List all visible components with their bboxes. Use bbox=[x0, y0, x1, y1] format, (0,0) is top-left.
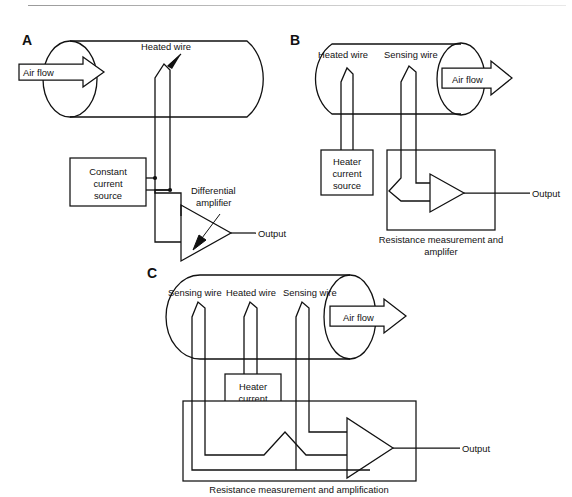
panel-a-air-flow-label: Air flow bbox=[23, 67, 54, 78]
panel-c-sensing-wire-left bbox=[192, 302, 205, 357]
panel-c-air-flow-label: Air flow bbox=[343, 312, 374, 323]
panel-c-heated-wire-label: Heated wire bbox=[226, 287, 276, 298]
panel-c-sensing-wire-right bbox=[296, 302, 309, 357]
panel-a: A Air flow Heated wire bbox=[19, 32, 287, 261]
panel-b-sensing-wire-label: Sensing wire bbox=[384, 49, 438, 60]
panel-c-measure-caption: Resistance measurement and amplification bbox=[209, 484, 388, 495]
panel-a-heated-wire bbox=[155, 64, 170, 105]
panel-a-heated-wire-label: Heated wire bbox=[141, 41, 191, 52]
panel-a-source-line3: source bbox=[94, 190, 122, 201]
panel-b-heater-line3: source bbox=[333, 180, 361, 191]
panel-c-heated-wire bbox=[244, 302, 257, 357]
panel-b-letter: B bbox=[290, 32, 300, 48]
panel-b-air-flow-label: Air flow bbox=[452, 74, 483, 85]
panel-b-heater-line2: current bbox=[332, 168, 362, 179]
panel-b-resistance-measurement-box bbox=[387, 150, 495, 230]
figure-canvas: A Air flow Heated wire bbox=[0, 0, 572, 497]
panel-c-sensing-wire-right-label: Sensing wire bbox=[283, 287, 337, 298]
panel-b-output-label: Output bbox=[532, 188, 561, 199]
panel-a-source-line2: current bbox=[93, 178, 123, 189]
panel-a-source-line1: Constant bbox=[89, 166, 127, 177]
panel-c: C Air flow Sensing wire Heated wire bbox=[147, 265, 491, 495]
panel-a-amplifier-line1: Differential bbox=[191, 185, 236, 196]
panel-c-output-label: Output bbox=[462, 443, 491, 454]
panel-c-heater-line1: Heater bbox=[239, 381, 267, 392]
panel-a-amp-input-plus bbox=[155, 178, 181, 216]
panel-a-amplifier-line2: amplifier bbox=[196, 197, 231, 208]
panel-b-measure-caption-line1: Resistance measurement and bbox=[379, 234, 504, 245]
panel-b-measure-caption-line2: amplifer bbox=[424, 246, 457, 257]
panel-a-amp-input-minus bbox=[155, 190, 181, 242]
panel-c-sensing-wire-left-label: Sensing wire bbox=[168, 287, 222, 298]
panel-b-sensing-wire bbox=[401, 66, 416, 120]
panel-c-letter: C bbox=[147, 265, 157, 281]
panel-b-heated-wire bbox=[341, 68, 353, 112]
panel-b-heated-wire-label: Heated wire bbox=[318, 49, 368, 60]
panel-c-resistance-measurement-box bbox=[183, 401, 416, 481]
panel-a-heated-wire-pointer bbox=[167, 54, 181, 69]
panel-b-heater-line1: Heater bbox=[333, 156, 361, 167]
diagram-svg: A Air flow Heated wire bbox=[0, 0, 572, 497]
scan-edge-artifact bbox=[28, 5, 566, 6]
panel-a-letter: A bbox=[22, 32, 32, 48]
panel-a-output-label: Output bbox=[258, 228, 287, 239]
panel-b: B Air flow Heated wire Sensing wire bbox=[290, 32, 561, 257]
